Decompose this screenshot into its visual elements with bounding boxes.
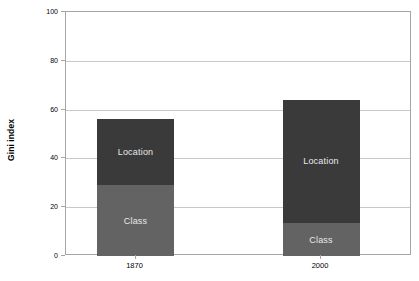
bar-segment-location-2000: Location — [283, 100, 360, 223]
bar-segment-location-1870: Location — [97, 119, 174, 185]
bar-segment-class-2000: Class — [283, 223, 360, 256]
y-axis-title: Gini index — [6, 80, 16, 200]
x-tick-label-2000: 2000 — [275, 261, 365, 270]
stacked-bar-chart: Gini index 020406080100 ClassLocationCla… — [0, 0, 419, 281]
gridline — [66, 61, 410, 62]
x-tick-mark — [320, 255, 321, 259]
y-tick-mark — [61, 255, 65, 256]
x-tick-mark — [135, 255, 136, 259]
x-tick-label-1870: 1870 — [90, 261, 180, 270]
y-tick-label: 0 — [12, 252, 58, 259]
bar-segment-label: Location — [118, 147, 154, 157]
y-tick-label: 40 — [12, 154, 58, 161]
y-tick-label: 60 — [12, 105, 58, 112]
bar-segment-label: Location — [303, 156, 339, 166]
bar-segment-label: Class — [124, 216, 148, 226]
plot-area: ClassLocationClassLocation — [65, 11, 411, 255]
y-tick-label: 20 — [12, 203, 58, 210]
y-tick-label: 80 — [12, 56, 58, 63]
bar-segment-class-1870: Class — [97, 185, 174, 256]
y-tick-label: 100 — [12, 8, 58, 15]
bar-segment-label: Class — [309, 235, 333, 245]
